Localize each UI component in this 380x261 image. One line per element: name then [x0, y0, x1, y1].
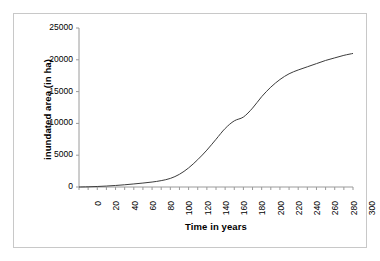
y-axis-tick-label: 10000 [33, 118, 73, 127]
data-series-line [79, 53, 353, 187]
y-axis-title: inundated area (in ha) [42, 30, 53, 190]
y-axis-tick-label: 25000 [33, 23, 73, 32]
chart-container: 0500010000150002000025000 02040608010012… [0, 0, 380, 261]
x-axis-title: Time in years [79, 221, 353, 232]
y-axis-tick-label: 0 [33, 182, 73, 191]
y-axis-tick-label: 20000 [33, 55, 73, 64]
y-axis-tick-label: 15000 [33, 87, 73, 96]
axis-lines [79, 28, 353, 187]
y-axis-tick-label: 5000 [33, 150, 73, 159]
x-axis-tick-label: 300 [368, 201, 377, 231]
